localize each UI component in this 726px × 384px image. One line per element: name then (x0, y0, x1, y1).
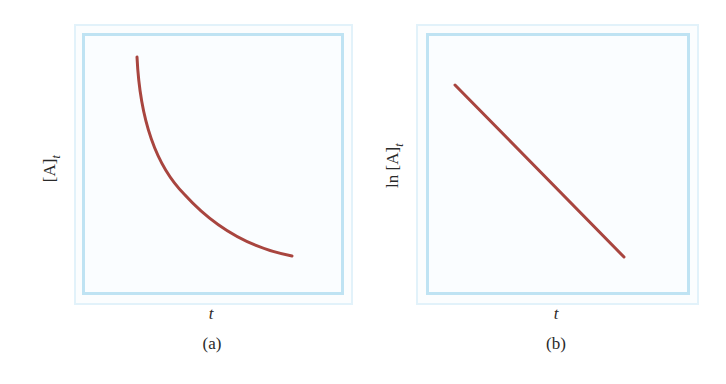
y-axis-label-text-b: ln [A] (383, 147, 402, 188)
y-axis-label-subscript-b: t (392, 143, 406, 146)
caption-b: (b) (536, 334, 576, 354)
panel-b: ln [A]t t (b) (0, 0, 726, 384)
linear-line-b (0, 0, 726, 384)
x-axis-label-b: t (541, 304, 571, 324)
y-axis-label-b: ln [A]t (383, 106, 406, 226)
